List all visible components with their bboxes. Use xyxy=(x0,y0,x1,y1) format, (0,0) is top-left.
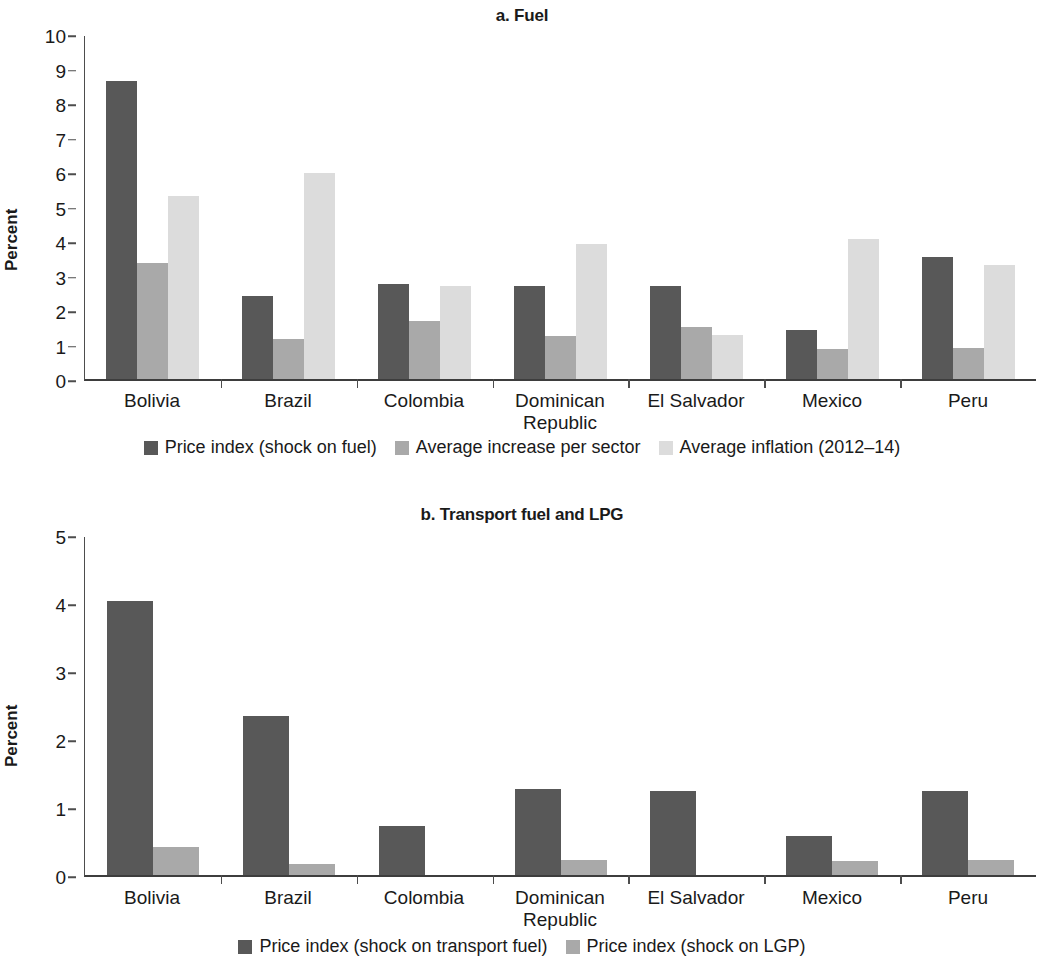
bar xyxy=(289,864,335,875)
bar xyxy=(953,348,984,379)
y-tick-mark xyxy=(68,70,76,72)
chart-a-y-axis-label: Percent xyxy=(2,209,22,271)
y-tick-label: 5 xyxy=(55,199,66,218)
y-tick-label: 1 xyxy=(55,337,66,356)
x-tick-mark xyxy=(221,379,223,388)
y-tick-label: 3 xyxy=(55,664,66,683)
bar-group xyxy=(85,537,221,875)
legend-swatch-icon xyxy=(144,441,158,455)
y-tick-mark xyxy=(68,104,76,106)
x-axis-category-label: Peru xyxy=(900,887,1036,931)
bar xyxy=(137,263,168,379)
chart-panel-transport-fuel-lpg: b. Transport fuel and LPG Percent 012345… xyxy=(0,495,1044,970)
bar xyxy=(650,791,696,876)
bar-group xyxy=(764,36,900,379)
y-tick-label: 1 xyxy=(55,800,66,819)
y-tick-mark xyxy=(68,242,76,244)
bar xyxy=(650,286,681,379)
x-tick-mark xyxy=(764,875,766,884)
legend-label: Price index (shock on transport fuel) xyxy=(259,936,547,957)
x-tick-mark xyxy=(493,379,495,388)
y-tick-label: 2 xyxy=(55,732,66,751)
x-axis-category-label: Peru xyxy=(900,390,1036,434)
bar xyxy=(848,239,879,379)
legend-label: Price index (shock on fuel) xyxy=(165,437,377,458)
bar-group xyxy=(493,36,629,379)
chart-a-legend: Price index (shock on fuel)Average incre… xyxy=(0,437,1044,458)
y-tick-mark xyxy=(68,808,76,810)
x-axis-category-label: Dominican Republic xyxy=(492,887,628,931)
bar-group xyxy=(357,36,493,379)
bar xyxy=(378,284,409,379)
y-tick-label: 8 xyxy=(55,96,66,115)
y-tick-mark xyxy=(68,277,76,279)
bar xyxy=(922,791,968,875)
panel-b-title: b. Transport fuel and LPG xyxy=(0,495,1044,525)
y-tick-label: 6 xyxy=(55,165,66,184)
chart-a-x-axis-labels: BoliviaBrazilColombiaDominican RepublicE… xyxy=(84,390,1036,434)
x-tick-mark xyxy=(493,875,495,884)
chart-b-y-axis-ticks: 012345 xyxy=(30,537,76,877)
legend-label: Average increase per sector xyxy=(416,437,641,458)
legend-item[interactable]: Price index (shock on LGP) xyxy=(566,936,806,957)
legend-item[interactable]: Price index (shock on fuel) xyxy=(144,437,377,458)
bar xyxy=(545,336,576,379)
chart-a-y-axis-ticks: 012345678910 xyxy=(30,36,76,381)
chart-panel-fuel: a. Fuel Percent 012345678910 BoliviaBraz… xyxy=(0,0,1044,480)
bar xyxy=(968,860,1014,875)
x-tick-mark xyxy=(764,379,766,388)
x-tick-mark xyxy=(628,379,630,388)
x-tick-mark xyxy=(628,875,630,884)
x-axis-category-label: Brazil xyxy=(220,390,356,434)
bar xyxy=(153,847,199,875)
chart-a-bar-groups xyxy=(85,36,1036,379)
x-tick-mark xyxy=(900,379,902,388)
y-tick-label: 4 xyxy=(55,234,66,253)
y-tick-mark xyxy=(68,672,76,674)
y-tick-mark xyxy=(68,173,76,175)
bar xyxy=(304,173,335,379)
y-tick-mark xyxy=(68,35,76,37)
y-tick-label: 4 xyxy=(55,596,66,615)
y-tick-label: 2 xyxy=(55,303,66,322)
x-axis-category-label: El Salvador xyxy=(628,390,764,434)
x-axis-category-label: Bolivia xyxy=(84,887,220,931)
legend-swatch-icon xyxy=(238,940,252,954)
bar-group xyxy=(493,537,629,875)
legend-label: Average inflation (2012–14) xyxy=(680,437,901,458)
bar xyxy=(440,286,471,379)
legend-swatch-icon xyxy=(659,441,673,455)
legend-item[interactable]: Price index (shock on transport fuel) xyxy=(238,936,547,957)
x-axis-category-label: Mexico xyxy=(764,887,900,931)
y-tick-mark xyxy=(68,740,76,742)
x-axis-category-label: Brazil xyxy=(220,887,356,931)
y-tick-label: 7 xyxy=(55,130,66,149)
legend-item[interactable]: Average inflation (2012–14) xyxy=(659,437,901,458)
y-tick-mark xyxy=(68,380,76,382)
y-tick-label: 5 xyxy=(55,528,66,547)
bar-group xyxy=(628,36,764,379)
panel-a-title: a. Fuel xyxy=(0,0,1044,26)
bar xyxy=(786,330,817,379)
bar xyxy=(681,327,712,379)
bar-group xyxy=(900,36,1036,379)
y-tick-mark xyxy=(68,876,76,878)
x-tick-mark xyxy=(357,875,359,884)
bar xyxy=(576,244,607,379)
bar xyxy=(379,826,425,875)
y-tick-mark xyxy=(68,536,76,538)
bar xyxy=(273,339,304,379)
bar xyxy=(242,296,273,379)
y-tick-mark xyxy=(68,208,76,210)
bar-group xyxy=(85,36,221,379)
y-tick-label: 0 xyxy=(55,868,66,887)
bar xyxy=(243,716,289,875)
chart-b-plot-area: Percent 012345 xyxy=(0,537,1044,877)
bar xyxy=(832,861,878,875)
bar-group xyxy=(764,537,900,875)
bar-group xyxy=(221,36,357,379)
bar xyxy=(817,349,848,379)
legend-item[interactable]: Average increase per sector xyxy=(395,437,641,458)
legend-swatch-icon xyxy=(395,441,409,455)
legend-label: Price index (shock on LGP) xyxy=(587,936,806,957)
